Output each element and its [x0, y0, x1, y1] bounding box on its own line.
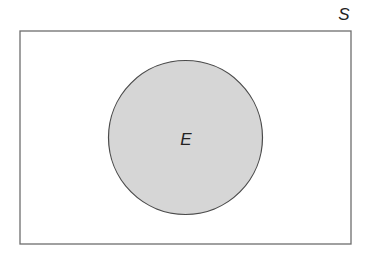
event-label: E	[180, 130, 192, 149]
venn-diagram: S E	[0, 0, 381, 268]
sample-space-label: S	[338, 5, 350, 24]
